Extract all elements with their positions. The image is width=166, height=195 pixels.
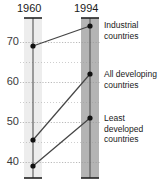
- series-label-least-developed-countries: Least developed countries: [104, 113, 143, 145]
- series-label-industrial-countries: Industrial countries: [104, 20, 139, 41]
- slope-chart: 1960 1994 40506070 Industrial countries …: [0, 0, 166, 195]
- y-axis-tick-70: 70: [0, 35, 19, 47]
- y-axis-tick-60: 60: [0, 75, 19, 87]
- series-label-all-developing-countries: All developing countries: [104, 69, 157, 90]
- y-axis-tick-50: 50: [0, 115, 19, 127]
- chart-canvas: [0, 0, 166, 195]
- y-axis-tick-40: 40: [0, 155, 19, 167]
